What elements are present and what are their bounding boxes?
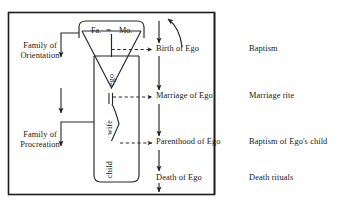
family-of-orientation-label: Family of Orientation [14,41,66,61]
family-of-procreation-label: Family of Procreation [14,130,66,150]
life-event-birth: Birth of Ego [156,44,199,54]
ritual-death-rituals: Death rituals [249,173,293,183]
diagram-canvas: Fa. = Mo. ego wife child Family of Orien… [0,0,344,212]
dashed-pointer-birth [112,45,153,54]
kin-term-child: child [105,161,114,178]
kin-term-wife: wife [105,120,114,135]
ritual-baptism: Baptism [249,44,278,54]
life-event-parenthood: Parenthood of Ego [156,137,221,147]
family-of-procreation-box [94,56,139,182]
family-label-line2: Procreation [14,140,66,150]
family-label-line1: Family of [14,130,66,140]
family-label-line1: Family of [14,41,66,51]
kin-term-ego: ego [107,74,116,86]
kin-term-father: Fa. [91,26,101,35]
family-label-line2: Orientation [14,51,66,61]
marriage-tie-ego-wife [109,93,113,104]
kin-term-mother: Mo. [119,26,132,35]
ritual-baptism-of-child: Baptism of Ego's child [249,137,327,147]
life-event-marriage: Marriage of Ego [156,91,213,101]
life-event-death: Death of Ego [156,173,202,183]
generational-recursion-arrow [168,19,182,47]
marriage-equals-sign: = [106,25,111,35]
ritual-marriage-rite: Marriage rite [249,91,294,101]
